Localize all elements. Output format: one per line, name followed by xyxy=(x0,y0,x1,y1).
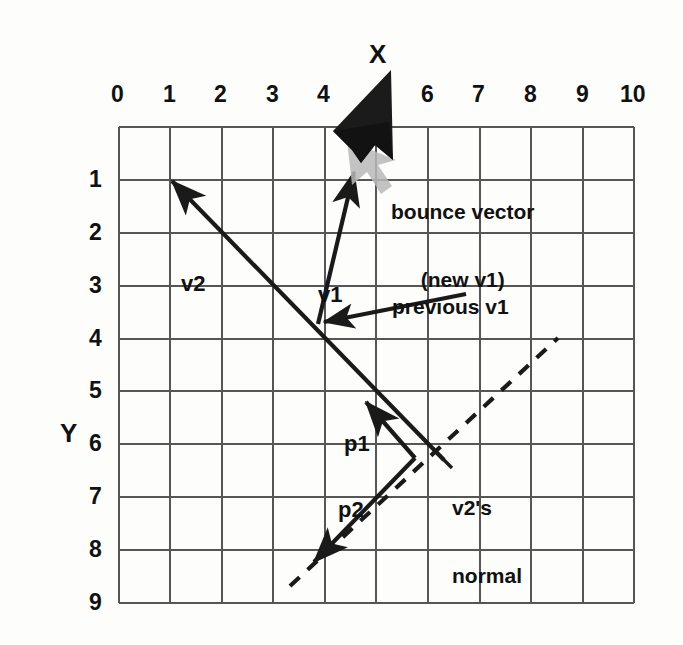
x-tick-2: 2 xyxy=(214,82,227,107)
x-tick-3: 3 xyxy=(266,82,279,107)
annotation-v2s-normal: v2's normal xyxy=(452,452,522,633)
x-tick-4: 4 xyxy=(317,82,330,107)
vector-label-v1: v1 xyxy=(318,283,342,307)
x-tick-8: 8 xyxy=(524,82,537,107)
axis-label-y: Y xyxy=(60,419,77,447)
x-tick-6: 6 xyxy=(421,82,434,107)
annotation-previous-v1-line1: previous v1 xyxy=(392,296,509,319)
x-tick-10: 10 xyxy=(620,82,646,107)
y-tick-8: 8 xyxy=(89,537,102,562)
vector-label-v2: v2 xyxy=(181,272,205,296)
y-tick-2: 2 xyxy=(89,220,102,245)
diagram-canvas: X Y 0 1 2 3 4 5 6 7 8 9 10 1 2 3 4 5 6 7… xyxy=(0,0,683,645)
vector-label-p1: p1 xyxy=(344,432,370,456)
y-tick-6: 6 xyxy=(89,431,102,456)
vector-p1 xyxy=(366,402,415,458)
vector-p2 xyxy=(314,458,415,562)
y-tick-7: 7 xyxy=(89,484,102,509)
x-tick-0: 0 xyxy=(111,82,124,107)
y-tick-1: 1 xyxy=(89,167,102,192)
mouse-cursor-icon xyxy=(333,70,396,194)
annotation-previous-v1: previous v1 xyxy=(392,251,509,364)
y-tick-3: 3 xyxy=(89,273,102,298)
annotation-v2s-normal-line1: v2's xyxy=(452,497,522,520)
x-tick-9: 9 xyxy=(576,82,589,107)
y-tick-5: 5 xyxy=(89,378,102,403)
annotation-bounce-vector-line1: bounce vector xyxy=(391,201,535,224)
annotation-v2s-normal-line2: normal xyxy=(452,565,522,588)
grid-lines xyxy=(119,127,634,603)
x-tick-1: 1 xyxy=(163,82,176,107)
vector-label-p2: p2 xyxy=(338,498,364,522)
y-tick-4: 4 xyxy=(89,326,102,351)
x-tick-7: 7 xyxy=(472,82,485,107)
y-tick-9: 9 xyxy=(89,590,102,615)
axis-label-x: X xyxy=(369,40,386,68)
